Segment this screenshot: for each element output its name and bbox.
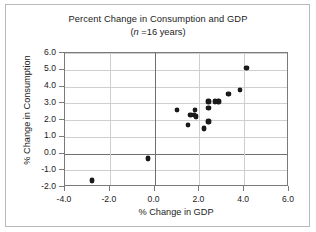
data-point	[90, 178, 94, 182]
plot-area	[64, 52, 288, 186]
v-gridline	[244, 53, 245, 185]
y-axis-tick	[59, 86, 64, 87]
y-axis-tick	[59, 169, 64, 170]
y-axis-tick-label: 2.0	[26, 114, 56, 124]
y-axis-tick-label: 0.0	[26, 147, 56, 157]
data-point	[238, 88, 242, 92]
h-gridline	[65, 70, 287, 71]
y-zero-line	[65, 154, 287, 155]
chart-title: Percent Change in Consumption and GDP	[0, 14, 316, 24]
x-axis-tick	[109, 186, 110, 191]
y-axis-tick	[59, 119, 64, 120]
data-point	[244, 66, 248, 70]
y-axis-tick-label: 6.0	[26, 47, 56, 57]
chart-subtitle: (n =16 years)	[0, 27, 316, 37]
y-axis-tick-label: 4.0	[26, 80, 56, 90]
y-axis-tick	[59, 52, 64, 53]
y-axis-tick	[59, 153, 64, 154]
data-point	[206, 106, 210, 110]
v-gridline	[110, 53, 111, 185]
data-point	[175, 108, 179, 112]
x-axis-tick-label: -4.0	[46, 194, 82, 204]
x-axis-tick	[154, 186, 155, 191]
data-point	[194, 114, 198, 118]
y-axis-tick	[59, 102, 64, 103]
h-gridline	[65, 103, 287, 104]
x-axis-tick	[64, 186, 65, 191]
data-point	[226, 92, 230, 96]
x-axis-tick-label: 4.0	[225, 194, 261, 204]
data-point	[193, 108, 197, 112]
h-gridline	[65, 53, 287, 54]
y-axis-tick	[59, 69, 64, 70]
x-axis-tick-label: -2.0	[91, 194, 127, 204]
x-zero-line	[155, 53, 156, 185]
scatter-plot-figure: Percent Change in Consumption and GDP (n…	[0, 0, 316, 232]
data-point	[202, 126, 206, 130]
x-axis-tick	[198, 186, 199, 191]
h-gridline	[65, 120, 287, 121]
y-axis-tick-label: -2.0	[26, 181, 56, 191]
x-axis-tick	[288, 186, 289, 191]
y-axis-title: % Change in Consumption	[22, 35, 32, 185]
y-axis-tick	[59, 136, 64, 137]
h-gridline	[65, 137, 287, 138]
y-axis-tick-label: 1.0	[26, 130, 56, 140]
data-point	[216, 99, 220, 103]
h-gridline	[65, 87, 287, 88]
x-axis-title: % Change in GDP	[64, 207, 288, 217]
data-point	[206, 119, 210, 123]
y-axis-tick-label: 5.0	[26, 63, 56, 73]
y-axis-tick-label: 3.0	[26, 97, 56, 107]
data-point	[206, 99, 210, 103]
v-gridline	[199, 53, 200, 185]
data-point	[146, 156, 150, 160]
y-axis-tick-label: -1.0	[26, 164, 56, 174]
x-axis-tick-label: 2.0	[180, 194, 216, 204]
x-axis-tick-label: 6.0	[270, 194, 306, 204]
h-gridline	[65, 170, 287, 171]
x-axis-tick-label: 0.0	[136, 194, 172, 204]
chart-subtitle-suffix: =16 years)	[139, 27, 186, 37]
data-point	[186, 123, 190, 127]
x-axis-tick	[243, 186, 244, 191]
